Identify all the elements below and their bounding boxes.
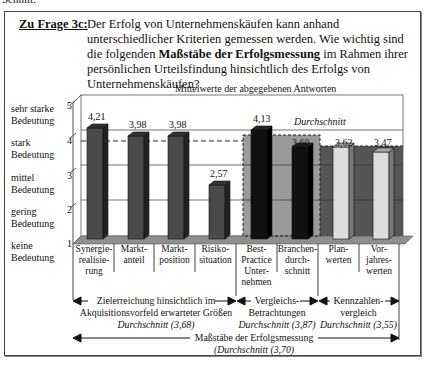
average-legend: Durchschnitt: [294, 116, 346, 127]
category-label: Markt-position: [154, 244, 195, 266]
group-label-1: Zielerreichung hinsichtlich imAkquisitio…: [76, 295, 236, 331]
value-label: 2,57: [210, 168, 228, 179]
value-label: 3,62: [335, 137, 353, 148]
group-label-3: Kennzahlen-vergleichDurchschnitt (3,55): [318, 295, 399, 331]
value-label: 3,98: [169, 119, 187, 130]
value-label: 3,47: [374, 137, 392, 148]
value-label: 4,21: [88, 111, 106, 122]
category-label: Plan-werten: [318, 244, 359, 266]
value-label: 3,98: [129, 119, 147, 130]
category-label: Branchen-durch-schnitt: [277, 244, 318, 277]
category-label: Risiko-situation: [195, 244, 236, 266]
category-label: Markt-anteil: [114, 244, 154, 266]
group-label-2: Vergleichs-BetrachtungenDurchschnitt (3,…: [236, 295, 318, 331]
category-label: Synergie-realisie-rung: [74, 244, 114, 277]
category-label: Vor-jahres-werten: [359, 244, 399, 277]
overall-label: Maßstäbe der Erfolgsmessung(Durchschnitt…: [190, 332, 318, 356]
value-label: 4,13: [253, 113, 271, 124]
category-label: Best-PracticeUnter-nehmen: [236, 244, 277, 288]
value-label: 3,60: [292, 137, 310, 148]
